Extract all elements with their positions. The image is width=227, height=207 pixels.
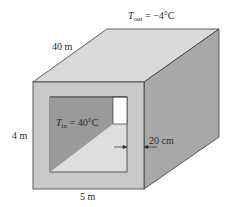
t-out-label: Tout = −4°C — [128, 10, 175, 23]
wall-thickness-label: 20 cm — [149, 135, 174, 146]
length-label: 40 m — [52, 41, 73, 52]
height-label: 4 m — [12, 130, 28, 141]
far-opening — [113, 97, 127, 124]
box-diagram: Tout = −4°C Tin = 40°C 40 m 4 m 5 m 20 c… — [0, 0, 227, 207]
width-label: 5 m — [80, 191, 96, 202]
